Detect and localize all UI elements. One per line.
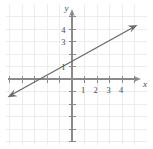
xtick-label-3: 3 [106, 85, 110, 95]
x-axis-label: x [142, 79, 147, 89]
ytick-label-1: 1 [61, 62, 65, 72]
xtick-label-1: 1 [81, 85, 85, 95]
ytick-label-3: 3 [61, 37, 65, 47]
xtick-label-2: 2 [93, 85, 97, 95]
chart-background [0, 0, 153, 149]
y-axis-label: y [64, 3, 69, 13]
graph-figure: 1 2 3 4 4 3 1 y x [0, 0, 153, 149]
coordinate-plane-chart: 1 2 3 4 4 3 1 y x [0, 0, 153, 149]
